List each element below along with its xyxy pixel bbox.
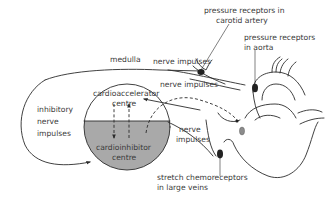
label-aorta-1: pressure receptors	[244, 33, 315, 42]
label-carotid-2: carotid artery	[216, 16, 268, 25]
label-cardioaccelerator-2: centre	[112, 99, 137, 108]
label-medulla: medulla	[110, 55, 141, 64]
vein-receptor	[217, 150, 223, 159]
label-nerve-impulses-top: nerve impulses	[153, 57, 211, 66]
aorta-descending	[253, 92, 260, 118]
label-veins-1: stretch chemoreceptors	[157, 173, 248, 182]
arch-branch-1b	[276, 59, 282, 72]
label-veins-2: in large veins	[157, 183, 208, 192]
label-aorta-2: in aorta	[244, 43, 273, 52]
label-inhibitory-2: nerve	[37, 117, 59, 126]
nerve-junction	[235, 119, 238, 122]
aorta-receptor	[252, 84, 258, 92]
label-inhibitory-1: inhibitory	[37, 105, 74, 114]
arch-branch-3	[288, 62, 296, 76]
heart-rate-control-diagram: medulla nerve impulses nerve impulses ne…	[0, 0, 334, 205]
aortic-arch-inner	[262, 84, 295, 100]
arch-branch-2	[280, 59, 288, 73]
aortic-arch-outer	[253, 72, 305, 95]
nerve-line-top	[45, 69, 201, 80]
label-carotid-1: pressure receptors in	[204, 6, 285, 15]
nerve-arrow-to-accelerator	[144, 99, 200, 110]
label-nerve-impulses-mid: nerve impulses	[160, 80, 218, 89]
label-cardioaccelerator-1: cardioaccelerator	[93, 89, 160, 98]
pulmonary-vessel	[245, 104, 296, 118]
heart-body	[224, 122, 318, 178]
heart-illustration	[190, 57, 324, 178]
label-inhibitory-3: impulses	[37, 129, 71, 138]
label-nerve-impulses-low-1: nerve	[179, 125, 201, 134]
label-cardioinhibitor-1: cardioinhibitor	[96, 143, 152, 152]
label-cardioinhibitor-2: centre	[112, 153, 137, 162]
right-vessel-2	[300, 118, 324, 124]
right-vessel	[298, 110, 322, 113]
heart-ganglion	[239, 127, 244, 135]
label-nerve-impulses-low-2: impulses	[176, 135, 210, 144]
